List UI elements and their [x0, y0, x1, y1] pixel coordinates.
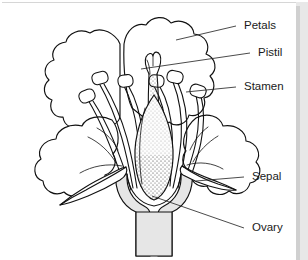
petal-upper-left [44, 30, 120, 131]
stem [136, 212, 172, 256]
frame-right-edge [296, 6, 300, 260]
label-pistil: Pistil [258, 46, 282, 58]
label-ovary: Ovary [252, 221, 283, 233]
diagram-canvas: Petals Pistil Stamen Sepal Ovary [0, 0, 308, 260]
petal-lower-right [183, 115, 260, 194]
labels-group: Petals Pistil Stamen Sepal Ovary [244, 19, 284, 233]
label-sepal: Sepal [252, 170, 281, 182]
label-stamen: Stamen [244, 80, 284, 92]
label-petals: Petals [244, 19, 276, 31]
anther-3 [117, 74, 134, 88]
flower-anatomy-figure: Petals Pistil Stamen Sepal Ovary [0, 0, 308, 260]
